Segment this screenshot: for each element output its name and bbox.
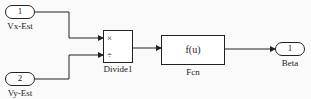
divide-sign: ÷ (107, 51, 112, 60)
multiply-sign: × (107, 34, 112, 43)
inport-1[interactable]: 1 (5, 5, 35, 19)
signal-line-vx (35, 12, 103, 38)
inport-2[interactable]: 2 (5, 72, 35, 86)
divide-block-label: Divide1 (98, 64, 138, 74)
inport-2-label: Vy-Est (2, 88, 38, 98)
inport-1-label: Vx-Est (2, 21, 38, 31)
outport-1-label: Beta (272, 58, 308, 68)
simulink-canvas: 1 Vx-Est 2 Vy-Est × ÷ Divide1 f(u) Fcn 1… (0, 0, 311, 99)
divide-block[interactable]: × ÷ (103, 30, 133, 63)
outport-1[interactable]: 1 (275, 42, 305, 56)
signal-line-vy (35, 55, 103, 79)
signal-lines (0, 0, 311, 99)
outport-1-number: 1 (288, 43, 293, 53)
fcn-block[interactable]: f(u) (161, 35, 225, 65)
inport-2-number: 2 (18, 73, 23, 83)
inport-1-number: 1 (18, 6, 23, 16)
fcn-expression: f(u) (162, 44, 224, 55)
fcn-block-label: Fcn (173, 67, 213, 77)
